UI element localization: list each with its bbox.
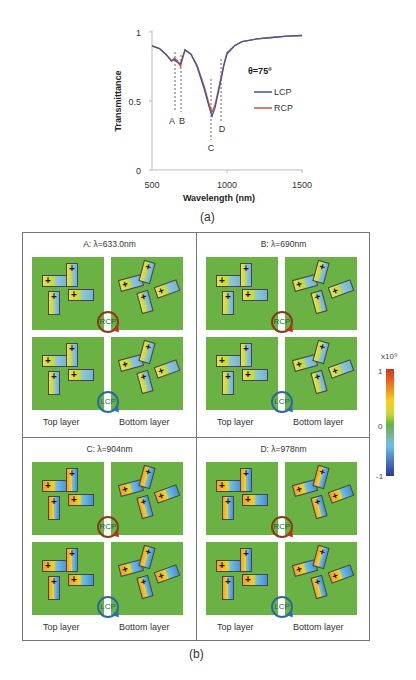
nanorod: + <box>312 465 329 489</box>
lcp-label: LCP <box>274 602 290 611</box>
plus-sign: + <box>243 344 249 354</box>
nanorod: + <box>138 465 155 489</box>
marker-lines <box>175 52 221 140</box>
y-tick-0.5: 0.5 <box>128 97 141 107</box>
nanorod: + <box>68 494 94 506</box>
nanorod: + <box>68 369 94 381</box>
nanorod: + <box>48 496 60 520</box>
nanorod: + <box>240 263 252 287</box>
field-map-top-lcp: ++++ <box>206 337 278 410</box>
plus-sign: + <box>219 276 225 286</box>
plus-sign: + <box>314 577 322 588</box>
nanorod: + <box>310 575 327 599</box>
plus-sign: + <box>314 497 322 508</box>
plus-sign: + <box>219 356 225 366</box>
x-tick-1000: 1000 <box>217 180 237 190</box>
field-map-bottom-rcp: ++++ <box>285 462 357 535</box>
x-tick-500: 500 <box>144 180 159 190</box>
nanorod: + <box>154 484 181 503</box>
nanorod: + <box>66 548 78 572</box>
plus-sign: + <box>225 497 231 507</box>
nanorod: + <box>216 275 242 287</box>
panel-title: B: λ=690nm <box>197 239 370 249</box>
colorbar-min: -1 <box>376 472 383 481</box>
field-map-grid: A: λ=633.0nm++++++++++++++++RCPLCPTop la… <box>22 232 370 641</box>
y-tick-0: 0 <box>136 166 141 176</box>
lcp-label: LCP <box>274 397 290 406</box>
plus-sign: + <box>245 575 251 585</box>
colorbar-max: 1 <box>378 367 382 376</box>
rcp-rotation-icon: RCP <box>271 311 293 333</box>
nanorod: + <box>138 545 155 569</box>
plus-sign: + <box>69 549 75 559</box>
legend-title: θ=75º <box>248 66 272 76</box>
plus-sign: + <box>51 497 57 507</box>
nanorod: + <box>66 468 78 492</box>
rcp-label: RCP <box>274 522 291 531</box>
bottom-layer-label: Bottom layer <box>119 417 170 427</box>
rcp-rotation-icon: RCP <box>97 516 119 538</box>
marker-A: A <box>169 116 175 126</box>
transmittance-chart: 1 0.5 0 500 1000 1500 Wavelength (nm) Tr… <box>0 0 416 230</box>
nanorod: + <box>138 340 155 364</box>
plus-sign: + <box>295 484 303 495</box>
nanorod: + <box>48 291 60 315</box>
lcp-label: LCP <box>100 397 116 406</box>
nanorod: + <box>136 575 153 599</box>
lcp-label: LCP <box>100 602 116 611</box>
nanorod: + <box>240 343 252 367</box>
nanorod: + <box>240 548 252 572</box>
plus-sign: + <box>157 570 166 581</box>
nanorod: + <box>42 275 68 287</box>
field-map-top-rcp: ++++ <box>206 257 278 330</box>
field-map-bottom-lcp: ++++ <box>111 542 183 615</box>
nanorod: + <box>310 290 327 314</box>
plus-sign: + <box>51 292 57 302</box>
nanorod: + <box>242 494 268 506</box>
plus-sign: + <box>157 285 166 296</box>
nanorod: + <box>136 370 153 394</box>
lcp-rotation-icon: LCP <box>271 391 293 413</box>
plus-sign: + <box>243 264 249 274</box>
nanorod: + <box>328 279 355 298</box>
plus-sign: + <box>157 490 166 501</box>
nanorod: + <box>68 289 94 301</box>
panel-title: D: λ=978nm <box>197 444 370 454</box>
nanorod: + <box>312 260 329 284</box>
panel-b: B: λ=690nm++++++++++++++++RCPLCPTop laye… <box>197 233 370 437</box>
field-map-bottom-rcp: ++++ <box>111 462 183 535</box>
plus-sign: + <box>157 365 166 376</box>
plus-sign: + <box>331 365 340 376</box>
plus-sign: + <box>225 292 231 302</box>
top-layer-label: Top layer <box>43 417 80 427</box>
plus-sign: + <box>121 279 129 290</box>
x-axis-label: Wavelength (nm) <box>183 193 255 203</box>
plus-sign: + <box>140 372 148 383</box>
plus-sign: + <box>314 292 322 303</box>
plus-sign: + <box>140 577 148 588</box>
plus-sign: + <box>144 547 152 558</box>
nanorod: + <box>242 369 268 381</box>
plus-sign: + <box>331 570 340 581</box>
colorbar <box>386 369 394 476</box>
caption-b: (b) <box>189 647 204 661</box>
nanorod: + <box>240 468 252 492</box>
nanorod: + <box>48 576 60 600</box>
nanorod: + <box>242 574 268 586</box>
plus-sign: + <box>243 549 249 559</box>
plus-sign: + <box>71 290 77 300</box>
top-layer-label: Top layer <box>217 622 254 632</box>
nanorod: + <box>328 484 355 503</box>
bottom-layer-label: Bottom layer <box>293 417 344 427</box>
plus-sign: + <box>295 359 303 370</box>
plus-sign: + <box>140 292 148 303</box>
plus-sign: + <box>144 342 152 353</box>
panel-d: D: λ=978nm++++++++++++++++RCPLCPTop laye… <box>197 438 370 642</box>
plus-sign: + <box>121 359 129 370</box>
field-map-bottom-lcp: ++++ <box>111 337 183 410</box>
nanorod: + <box>216 480 242 492</box>
nanorod: + <box>242 289 268 301</box>
nanorod: + <box>138 260 155 284</box>
x-tick-1500: 1500 <box>292 180 312 190</box>
plus-sign: + <box>69 344 75 354</box>
